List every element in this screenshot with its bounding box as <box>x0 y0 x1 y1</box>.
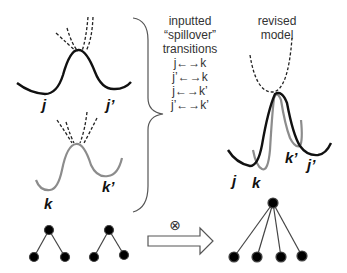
dashed-parabolas <box>56 17 93 51</box>
tree-node <box>297 251 307 261</box>
label-k-prime: k’ <box>102 178 115 195</box>
tree-node <box>268 198 278 208</box>
transitions-text: inputted “spillover” transitions j←→k j’… <box>163 14 218 112</box>
label-k: k <box>44 195 53 212</box>
top-left-potential: j j’ <box>17 17 131 113</box>
label-k-prime: k’ <box>285 149 298 166</box>
tree-node <box>252 252 262 262</box>
tree-node <box>30 253 39 262</box>
tree-node <box>61 253 70 262</box>
tree-node <box>229 252 239 262</box>
black-potential-curve <box>17 50 131 94</box>
transitions-title-2: “spillover” <box>164 28 216 42</box>
revised-model-title-2: model <box>261 28 294 42</box>
transitions-title-3: transitions <box>163 42 218 56</box>
dashed-parabolas <box>57 112 97 143</box>
dashed-parabola <box>250 38 292 92</box>
tree-node <box>90 253 99 262</box>
tree-left-2 <box>90 226 129 262</box>
diagram-canvas: j j’ k k’ inputted “spillover” transitio… <box>0 0 347 273</box>
curly-brace <box>133 18 163 212</box>
bottom-left-potential: k k’ <box>36 112 122 212</box>
tree-node <box>276 252 286 262</box>
label-j-prime: j’ <box>104 96 115 113</box>
label-j: j <box>40 96 47 113</box>
tree-left-1 <box>30 226 70 262</box>
tree-combined <box>229 198 307 262</box>
transition-item: j←→k’ <box>171 84 207 98</box>
tree-node <box>45 226 54 235</box>
transition-item: j←→k <box>173 56 208 70</box>
transitions-title-1: inputted <box>169 14 212 28</box>
revised-model: revised model j k k’ j’ <box>228 14 331 191</box>
label-k: k <box>252 174 261 191</box>
black-potential-curve <box>228 93 331 166</box>
tree-node <box>120 251 129 260</box>
label-j: j <box>230 172 237 189</box>
label-j-prime: j’ <box>305 156 316 173</box>
transition-item: j’←→k’ <box>170 98 209 112</box>
transition-item: j’←→k <box>171 70 208 84</box>
revised-model-title-1: revised <box>258 14 297 28</box>
tensor-product-icon: ⊗ <box>169 217 181 233</box>
tree-node <box>105 226 114 235</box>
